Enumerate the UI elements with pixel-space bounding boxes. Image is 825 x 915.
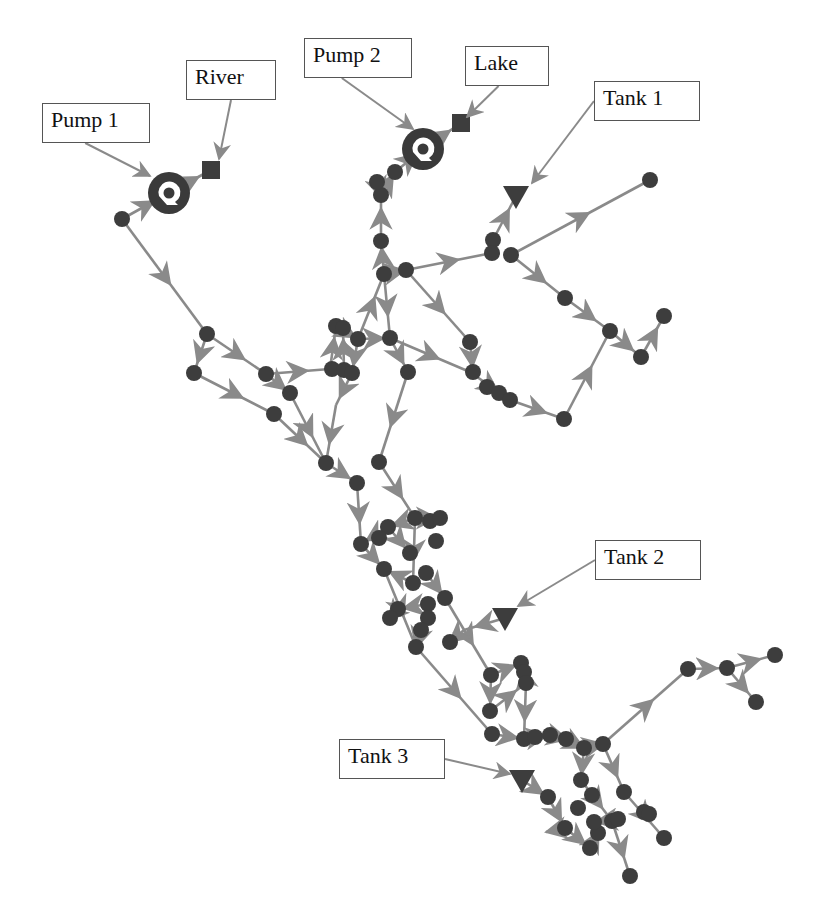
junction-node	[502, 392, 518, 408]
tank-tank3-icon	[509, 770, 535, 793]
pipe	[358, 274, 384, 339]
callout-pump1: Pump 1	[42, 103, 150, 143]
pipe	[266, 369, 330, 374]
junction-node	[641, 806, 657, 822]
junction-node	[432, 510, 448, 526]
callout-leader-pump2	[342, 78, 413, 129]
junction-node	[656, 308, 672, 324]
junction-node	[484, 245, 500, 261]
junction-node	[767, 647, 783, 663]
junction-node	[642, 172, 658, 188]
pipe	[274, 414, 326, 463]
junction-node	[576, 740, 592, 756]
pipe	[565, 298, 610, 331]
junction-node	[266, 406, 282, 422]
pipe	[384, 274, 390, 338]
pipe	[564, 331, 610, 419]
tank-tank1-icon	[503, 186, 529, 209]
junction-node	[586, 814, 602, 830]
junction-node	[465, 364, 481, 380]
pump-hub-icon	[164, 188, 175, 199]
callout-leader-lake	[467, 86, 499, 117]
reservoir-river-icon	[202, 161, 220, 179]
pipe	[207, 334, 266, 374]
pump-hub-icon	[418, 144, 429, 155]
junction-node	[595, 736, 611, 752]
junction-node	[318, 455, 334, 471]
callout-tank3: Tank 3	[339, 739, 445, 779]
pipe	[326, 405, 336, 463]
junction-node	[602, 323, 618, 339]
pipe	[524, 683, 526, 739]
junction-node	[518, 675, 534, 691]
junction-node	[199, 326, 215, 342]
junction-node	[408, 639, 424, 655]
junction-node	[402, 545, 418, 561]
junction-node	[748, 694, 764, 710]
junction-node	[527, 729, 543, 745]
pipe	[511, 180, 650, 255]
junction-node	[400, 364, 416, 380]
junction-node	[376, 266, 392, 282]
junction-node	[369, 174, 385, 190]
pipe	[122, 219, 207, 334]
junction-node	[349, 475, 365, 491]
junction-node	[335, 320, 351, 336]
junction-node	[186, 365, 202, 381]
junction-node	[558, 731, 574, 747]
junction-node	[405, 575, 421, 591]
pipe	[406, 270, 470, 342]
junction-node	[503, 247, 519, 263]
pipe	[290, 393, 326, 463]
pipe	[357, 483, 361, 544]
junction-node	[557, 290, 573, 306]
junction-node	[719, 660, 735, 676]
pipe	[379, 372, 408, 462]
callout-leader-tank1	[532, 101, 594, 183]
callout-leader-tank2	[518, 560, 595, 606]
junction-node	[556, 411, 572, 427]
junction-node	[616, 784, 632, 800]
junction-node	[573, 772, 589, 788]
junction-node	[557, 820, 573, 836]
junction-node	[344, 365, 360, 381]
junction-node	[407, 510, 423, 526]
junction-node	[484, 726, 500, 742]
pipe	[510, 400, 564, 419]
junction-node	[442, 634, 458, 650]
junction-node	[382, 330, 398, 346]
pipe	[612, 821, 630, 876]
junction-node	[398, 262, 414, 278]
junction-node	[610, 811, 626, 827]
junction-node	[413, 622, 429, 638]
junction-node	[482, 703, 498, 719]
junction-node	[373, 233, 389, 249]
junction-node	[282, 385, 298, 401]
pipe	[379, 462, 415, 518]
junction-node	[582, 840, 598, 856]
callout-tank2: Tank 2	[595, 540, 701, 580]
pipe	[406, 253, 492, 270]
callout-leader-pump1	[85, 143, 150, 176]
callout-river: River	[186, 60, 276, 100]
junction-node	[371, 530, 387, 546]
junction-node	[584, 787, 600, 803]
junction-node	[437, 590, 453, 606]
junction-node	[418, 565, 434, 581]
junction-node	[483, 667, 499, 683]
junction-node	[350, 331, 366, 347]
junction-node	[114, 211, 130, 227]
callout-leader-river	[219, 100, 231, 159]
junction-node	[353, 536, 369, 552]
junction-node	[371, 454, 387, 470]
junction-node	[428, 533, 444, 549]
junction-node	[382, 610, 398, 626]
junction-node	[680, 661, 696, 677]
callout-pump2: Pump 2	[304, 38, 412, 78]
junction-node	[462, 334, 478, 350]
junction-node	[656, 830, 672, 846]
callout-tank1: Tank 1	[594, 81, 700, 121]
pipe	[511, 255, 565, 298]
junction-node	[633, 349, 649, 365]
junction-node	[622, 868, 638, 884]
